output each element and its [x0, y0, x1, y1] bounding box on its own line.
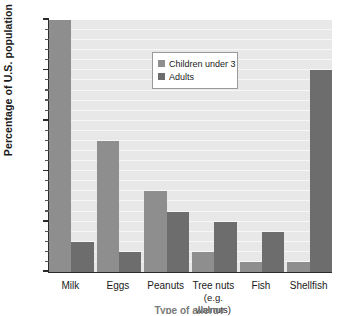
bar — [97, 141, 119, 272]
y-axis-minor-tick — [45, 130, 49, 131]
y-axis-tick — [43, 119, 49, 121]
y-axis-minor-tick — [45, 180, 49, 181]
y-axis-minor-tick — [45, 140, 49, 141]
y-axis-minor-tick — [45, 99, 49, 100]
bar — [262, 232, 284, 272]
y-axis-minor-tick — [45, 89, 49, 90]
bar — [310, 70, 332, 272]
y-axis-title: Percentage of U.S. population — [2, 0, 18, 190]
y-axis-minor-tick — [45, 59, 49, 60]
bar — [49, 20, 71, 272]
y-axis-minor-tick — [45, 49, 49, 50]
bar — [144, 191, 166, 272]
y-axis-minor-tick — [45, 110, 49, 111]
bar — [192, 252, 214, 272]
y-axis-tick — [43, 220, 49, 222]
y-axis-tick — [43, 69, 49, 71]
y-axis-minor-tick — [45, 29, 49, 30]
y-axis-minor-tick — [45, 241, 49, 242]
legend-swatch-icon-children — [158, 60, 165, 67]
y-axis-minor-tick — [45, 251, 49, 252]
y-axis-minor-tick — [45, 160, 49, 161]
y-axis-minor-tick — [45, 190, 49, 191]
x-axis-title: Type of allergy — [48, 305, 331, 314]
bar — [287, 262, 309, 272]
bar — [71, 242, 93, 272]
y-axis-tick — [43, 170, 49, 172]
legend-item-adults: Adults — [158, 70, 232, 83]
y-axis-tick — [43, 18, 49, 20]
y-axis-minor-tick — [45, 261, 49, 262]
bar — [167, 212, 189, 272]
legend-label-adults: Adults — [169, 72, 194, 82]
y-axis-minor-tick — [45, 210, 49, 211]
bar — [214, 222, 236, 272]
y-axis-minor-tick — [45, 200, 49, 201]
x-axis-tick-label: Shellfish — [280, 280, 337, 292]
legend-label-children: Children under 3 — [169, 59, 236, 69]
bar — [240, 262, 262, 272]
y-axis-minor-tick — [45, 231, 49, 232]
legend-swatch-icon-adults — [158, 73, 165, 80]
bar — [119, 252, 141, 272]
y-axis-minor-tick — [45, 79, 49, 80]
y-axis-minor-tick — [45, 150, 49, 151]
y-axis-minor-tick — [45, 39, 49, 40]
legend: Children under 3 Adults — [152, 52, 238, 89]
legend-item-children: Children under 3 — [158, 57, 232, 70]
y-axis-tick — [43, 270, 49, 272]
